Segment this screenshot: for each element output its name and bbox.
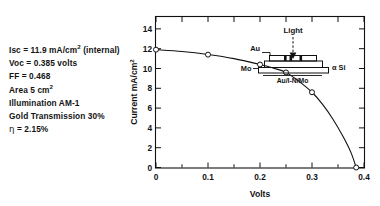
inset-mo-substrate <box>259 68 329 74</box>
y-tick-label: 8 <box>147 83 152 93</box>
data-point-marker <box>154 47 159 52</box>
data-point-marker <box>284 70 289 75</box>
iv-chart: 00.10.20.30.4 02468101214 Volts Current … <box>0 0 380 206</box>
y-axis-title-main: Current mA/cm <box>129 62 139 124</box>
x-tick-label: 0.3 <box>306 172 318 182</box>
inset-au-finger-left <box>284 56 287 62</box>
y-tick-label: 10 <box>143 64 153 74</box>
inset-mo-label: Mo <box>241 64 252 73</box>
inset-light-label: Light <box>283 26 302 35</box>
data-point-marker <box>310 90 315 95</box>
x-axis-title: Volts <box>250 189 271 199</box>
x-tick-label: 0.1 <box>202 172 214 182</box>
data-point-marker <box>258 62 263 67</box>
inset-active-layer <box>265 61 323 68</box>
y-axis-title-exponent: 2 <box>128 59 135 63</box>
x-tick-label: 0.2 <box>254 172 266 182</box>
inset-au-finger-right <box>300 56 303 62</box>
plot-frame <box>156 17 365 169</box>
inset-stack-label: Au/I-N/Mo <box>277 77 309 84</box>
y-tick-label: 14 <box>143 24 153 34</box>
solar-cell-iv-figure: Isc = 11.9 mA/cm2 (internal) Voc = 0.385… <box>0 0 380 206</box>
y-tick-label: 0 <box>147 163 152 173</box>
device-schematic-inset: Light Au Mo α Si Au/ <box>241 26 346 84</box>
inset-au-label: Au <box>250 44 260 53</box>
data-point-marker <box>354 165 359 170</box>
y-tick-label: 6 <box>147 103 152 113</box>
y-axis-tick-labels: 02468101214 <box>143 24 153 173</box>
y-axis-right-ticks <box>359 29 364 168</box>
y-tick-label: 4 <box>147 123 152 133</box>
x-tick-label: 0 <box>154 172 159 182</box>
data-point-marker <box>206 52 211 57</box>
x-axis-major-ticks <box>156 163 364 168</box>
y-tick-label: 2 <box>147 143 152 153</box>
y-axis-title: Current mA/cm2 <box>128 59 139 125</box>
inset-alpha-si-label: α Si <box>332 63 346 72</box>
iv-data-markers <box>154 47 359 170</box>
x-tick-label: 0.4 <box>358 172 370 182</box>
y-axis-title-group: Current mA/cm2 <box>128 59 139 125</box>
x-axis-tick-labels: 00.10.20.30.4 <box>154 172 370 182</box>
inset-au-finger-center <box>290 56 293 62</box>
x-axis-top-ticks <box>156 17 364 22</box>
y-tick-label: 12 <box>143 44 153 54</box>
